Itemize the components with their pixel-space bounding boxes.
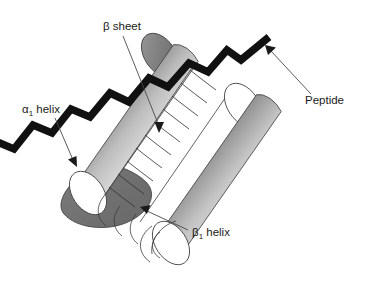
beta-sheet-label: β sheet [103,20,142,32]
alpha1-helix-leader [55,118,77,167]
beta1-helix-label-suffix: helix [203,226,230,238]
beta1-helix-label: β1 helix [192,226,230,241]
peptide-label: Peptide [305,94,344,106]
alpha1-helix-label: α1 helix [22,103,60,118]
alpha1-helix-label-suffix: helix [33,103,60,115]
peptide-leader [265,45,311,94]
diagram-canvas: β sheet α1 helix β1 helix Peptide [0,0,365,291]
protein-coiled-coil-diagram: β sheet α1 helix β1 helix Peptide [0,0,365,291]
